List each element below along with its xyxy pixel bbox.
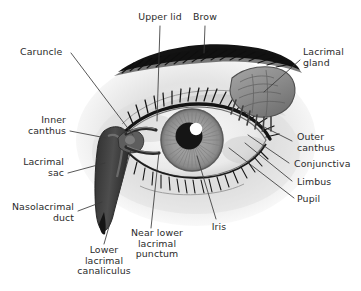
label-lacrimal-gland: Lacrimal gland	[303, 47, 359, 68]
label-iris: Iris	[205, 222, 233, 233]
label-limbus: Limbus	[297, 177, 345, 188]
label-outer-canthus: Outer canthus	[297, 132, 351, 153]
label-conjunctiva: Conjunctiva	[294, 159, 360, 170]
label-brow: Brow	[182, 12, 228, 23]
label-nasolacrimal-duct: Nasolacrimal duct	[0, 202, 74, 223]
label-pupil: Pupil	[297, 194, 337, 205]
pupil-shape	[176, 123, 203, 150]
label-inner-canthus: Inner canthus	[4, 115, 66, 136]
label-near-lower-lacrimal-punctum: Near lower lacrimal punctum	[124, 228, 190, 260]
label-lacrimal-sac: Lacrimal sac	[4, 157, 64, 178]
label-caruncle: Caruncle	[20, 47, 76, 58]
eye-anatomy-figure: Upper lid Brow Lacrimal gland Caruncle I…	[0, 0, 361, 291]
